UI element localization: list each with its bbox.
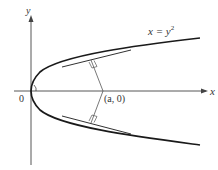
diagram-canvas: x y 0 (a, 0) x = y2 bbox=[0, 0, 218, 170]
curve-equation-label: x = y2 bbox=[147, 24, 175, 37]
parabola-diagram: x y 0 (a, 0) x = y2 bbox=[0, 0, 218, 170]
point-a-label: (a, 0) bbox=[104, 93, 125, 105]
vertex-angle-arc bbox=[34, 85, 36, 91]
origin-label: 0 bbox=[19, 93, 24, 104]
x-axis-label: x bbox=[209, 85, 215, 97]
y-axis-arrow-icon bbox=[29, 15, 34, 22]
y-axis-label: y bbox=[25, 5, 31, 16]
lower-tangent-line bbox=[62, 116, 131, 134]
x-axis-arrow-icon bbox=[201, 89, 208, 94]
upper-normal-line bbox=[91, 60, 103, 91]
equation-exponent: 2 bbox=[171, 24, 175, 32]
equation-base: x = y bbox=[147, 25, 171, 37]
lower-normal-line bbox=[91, 91, 103, 123]
